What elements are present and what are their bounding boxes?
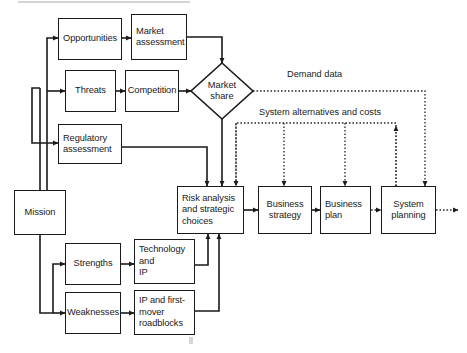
node-regulatory-assessment-label: Regulatory assessment xyxy=(63,133,112,156)
node-opportunities-label: Opportunities xyxy=(63,33,117,44)
node-ip-first-mover-roadblocks-label: IP and first- mover roadblocks xyxy=(139,295,185,329)
node-regulatory-assessment[interactable]: Regulatory assessment xyxy=(58,124,122,164)
node-risk-analysis-label: Risk analysis and strategic choices xyxy=(182,193,235,227)
node-threats-label: Threats xyxy=(75,85,106,96)
node-weaknesses-label: Weaknesses xyxy=(67,307,119,318)
node-technology-and-ip-label: Technology and IP xyxy=(139,244,185,278)
node-ip-first-mover-roadblocks[interactable]: IP and first- mover roadblocks xyxy=(134,290,195,335)
node-strengths-label: Strengths xyxy=(74,258,113,269)
node-market-share-label: Market share xyxy=(208,80,236,103)
node-market-assessment-label: Market assessment xyxy=(136,26,185,49)
edge-market-assessment-to-market-share xyxy=(187,37,222,63)
edge-roadblocks-to-risk-analysis xyxy=(195,234,219,311)
edge-regulatory-to-risk-analysis xyxy=(122,147,207,186)
node-business-strategy-label: Business strategy xyxy=(267,199,304,222)
edge-mission-to-regulatory xyxy=(32,88,58,143)
node-threats[interactable]: Threats xyxy=(65,70,116,112)
edge-demand-data xyxy=(253,91,425,186)
edge-system-alternatives-bus xyxy=(236,123,396,186)
edge-label-demand-data: Demand data xyxy=(285,69,344,80)
node-market-share[interactable]: Market share xyxy=(191,63,253,119)
node-business-strategy[interactable]: Business strategy xyxy=(258,186,312,234)
node-market-assessment[interactable]: Market assessment xyxy=(131,14,187,60)
node-system-planning[interactable]: System planning xyxy=(381,186,436,234)
node-mission[interactable]: Mission xyxy=(14,190,66,235)
node-mission-label: Mission xyxy=(25,207,56,218)
edge-label-system-alternatives-and-costs: System alternatives and costs xyxy=(257,107,383,118)
node-system-planning-label: System planning xyxy=(391,199,425,222)
node-strengths[interactable]: Strengths xyxy=(65,243,121,285)
node-technology-and-ip[interactable]: Technology and IP xyxy=(134,239,195,284)
node-competition-label: Competition xyxy=(128,85,177,96)
node-business-plan[interactable]: Business plan xyxy=(320,186,371,234)
edge-technology-to-risk-analysis xyxy=(195,234,208,265)
node-risk-analysis[interactable]: Risk analysis and strategic choices xyxy=(177,186,244,234)
node-weaknesses[interactable]: Weaknesses xyxy=(65,292,121,334)
flowchart-diagram: Opportunities Market assessment Threats … xyxy=(0,0,467,353)
node-opportunities[interactable]: Opportunities xyxy=(58,18,122,60)
node-competition[interactable]: Competition xyxy=(125,70,179,112)
edge-mission-to-opportunities xyxy=(47,38,58,190)
node-business-plan-label: Business plan xyxy=(325,199,362,222)
page-artifact-mark xyxy=(189,337,193,344)
edge-mission-to-strengths xyxy=(40,235,65,313)
